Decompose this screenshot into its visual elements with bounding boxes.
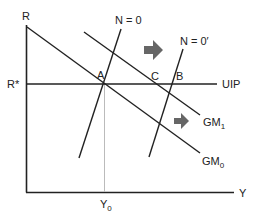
- n0-prime-label: N = 0′: [180, 35, 209, 47]
- lower-shift-arrow-icon: [174, 113, 189, 129]
- diagram: R Y Y0 R* UIP GM0 GM1 N = 0 N = 0′ A C B: [0, 0, 253, 218]
- y0-tick-label: Y0: [100, 198, 112, 213]
- upper-shift-arrow-icon: [144, 40, 163, 60]
- gm0-curve: [27, 27, 200, 153]
- gm1-label: GM1: [203, 116, 226, 131]
- n0-curve: [79, 29, 121, 158]
- n0-label: N = 0: [115, 14, 142, 26]
- x-axis-label: Y: [239, 187, 247, 199]
- r-star-label: R*: [7, 78, 20, 90]
- point-b-label: B: [176, 70, 183, 82]
- point-a-label: A: [97, 69, 105, 81]
- gm0-label: GM0: [202, 155, 225, 170]
- y-axis-label: R: [22, 10, 30, 22]
- point-c-label: C: [151, 70, 159, 82]
- uip-label: UIP: [222, 78, 240, 90]
- n0-prime-curve: [149, 49, 183, 157]
